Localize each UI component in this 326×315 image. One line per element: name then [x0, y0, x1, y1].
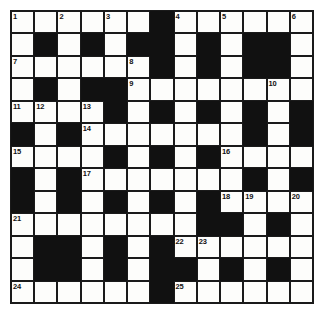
- crossword-cell[interactable]: [34, 191, 57, 213]
- crossword-cell[interactable]: [81, 56, 104, 78]
- crossword-cell[interactable]: [290, 281, 313, 303]
- crossword-cell[interactable]: [34, 281, 57, 303]
- crossword-cell[interactable]: [11, 258, 34, 280]
- crossword-cell[interactable]: [11, 33, 34, 55]
- crossword-cell[interactable]: [57, 146, 80, 168]
- crossword-cell[interactable]: [127, 236, 150, 258]
- crossword-cell[interactable]: 21: [11, 213, 34, 235]
- crossword-cell[interactable]: [57, 213, 80, 235]
- crossword-cell[interactable]: [243, 236, 266, 258]
- crossword-cell[interactable]: [174, 78, 197, 100]
- crossword-cell[interactable]: [197, 78, 220, 100]
- crossword-cell[interactable]: 1: [11, 11, 34, 33]
- crossword-cell[interactable]: 10: [267, 78, 290, 100]
- crossword-cell[interactable]: [220, 33, 243, 55]
- crossword-cell[interactable]: [57, 56, 80, 78]
- crossword-cell[interactable]: 6: [290, 11, 313, 33]
- crossword-cell[interactable]: 24: [11, 281, 34, 303]
- crossword-cell[interactable]: 8: [127, 56, 150, 78]
- crossword-cell[interactable]: [81, 213, 104, 235]
- crossword-cell[interactable]: [267, 11, 290, 33]
- crossword-cell[interactable]: [220, 56, 243, 78]
- crossword-cell[interactable]: [81, 236, 104, 258]
- crossword-cell[interactable]: [57, 101, 80, 123]
- crossword-cell[interactable]: [267, 281, 290, 303]
- crossword-cell[interactable]: [197, 281, 220, 303]
- crossword-cell[interactable]: 15: [11, 146, 34, 168]
- crossword-cell[interactable]: [34, 123, 57, 145]
- crossword-cell[interactable]: [104, 168, 127, 190]
- crossword-cell[interactable]: [127, 123, 150, 145]
- crossword-cell[interactable]: [127, 11, 150, 33]
- crossword-cell[interactable]: [243, 11, 266, 33]
- crossword-cell[interactable]: [11, 78, 34, 100]
- crossword-cell[interactable]: [127, 168, 150, 190]
- crossword-cell[interactable]: [57, 33, 80, 55]
- crossword-cell[interactable]: [127, 191, 150, 213]
- crossword-cell[interactable]: [150, 213, 173, 235]
- crossword-cell[interactable]: [290, 146, 313, 168]
- crossword-cell[interactable]: [243, 213, 266, 235]
- crossword-cell[interactable]: 9: [127, 78, 150, 100]
- crossword-cell[interactable]: [243, 78, 266, 100]
- crossword-cell[interactable]: 4: [174, 11, 197, 33]
- crossword-cell[interactable]: [267, 101, 290, 123]
- crossword-cell[interactable]: [197, 258, 220, 280]
- crossword-cell[interactable]: [34, 213, 57, 235]
- crossword-cell[interactable]: [57, 281, 80, 303]
- crossword-cell[interactable]: [104, 281, 127, 303]
- crossword-cell[interactable]: [290, 78, 313, 100]
- crossword-cell[interactable]: [150, 168, 173, 190]
- crossword-cell[interactable]: 20: [290, 191, 313, 213]
- crossword-cell[interactable]: [81, 191, 104, 213]
- crossword-cell[interactable]: 13: [81, 101, 104, 123]
- crossword-cell[interactable]: [267, 146, 290, 168]
- crossword-cell[interactable]: [127, 146, 150, 168]
- crossword-cell[interactable]: [290, 236, 313, 258]
- crossword-cell[interactable]: 7: [11, 56, 34, 78]
- crossword-cell[interactable]: [174, 191, 197, 213]
- crossword-cell[interactable]: 22: [174, 236, 197, 258]
- crossword-cell[interactable]: 16: [220, 146, 243, 168]
- crossword-cell[interactable]: [104, 123, 127, 145]
- crossword-cell[interactable]: [220, 236, 243, 258]
- crossword-cell[interactable]: [243, 258, 266, 280]
- crossword-cell[interactable]: [81, 281, 104, 303]
- crossword-cell[interactable]: [267, 236, 290, 258]
- crossword-cell[interactable]: [220, 101, 243, 123]
- crossword-cell[interactable]: [220, 78, 243, 100]
- crossword-cell[interactable]: [174, 123, 197, 145]
- crossword-cell[interactable]: 18: [220, 191, 243, 213]
- crossword-cell[interactable]: [290, 258, 313, 280]
- crossword-cell[interactable]: [127, 101, 150, 123]
- crossword-cell[interactable]: [197, 11, 220, 33]
- crossword-cell[interactable]: [127, 258, 150, 280]
- crossword-cell[interactable]: [290, 56, 313, 78]
- crossword-cell[interactable]: [174, 213, 197, 235]
- crossword-cell[interactable]: [174, 168, 197, 190]
- crossword-cell[interactable]: [267, 123, 290, 145]
- crossword-cell[interactable]: [174, 146, 197, 168]
- crossword-cell[interactable]: 11: [11, 101, 34, 123]
- crossword-cell[interactable]: [127, 213, 150, 235]
- crossword-cell[interactable]: [104, 213, 127, 235]
- crossword-cell[interactable]: 5: [220, 11, 243, 33]
- crossword-cell[interactable]: 3: [104, 11, 127, 33]
- crossword-cell[interactable]: [174, 56, 197, 78]
- crossword-cell[interactable]: [220, 168, 243, 190]
- crossword-cell[interactable]: 12: [34, 101, 57, 123]
- crossword-cell[interactable]: [81, 258, 104, 280]
- crossword-cell[interactable]: [150, 123, 173, 145]
- crossword-cell[interactable]: 14: [81, 123, 104, 145]
- crossword-cell[interactable]: 17: [81, 168, 104, 190]
- crossword-cell[interactable]: [290, 33, 313, 55]
- crossword-cell[interactable]: [104, 56, 127, 78]
- crossword-cell[interactable]: [174, 101, 197, 123]
- crossword-cell[interactable]: [34, 168, 57, 190]
- crossword-cell[interactable]: [220, 123, 243, 145]
- crossword-cell[interactable]: [81, 11, 104, 33]
- crossword-cell[interactable]: [290, 213, 313, 235]
- crossword-cell[interactable]: [34, 56, 57, 78]
- crossword-cell[interactable]: [81, 146, 104, 168]
- crossword-cell[interactable]: [197, 168, 220, 190]
